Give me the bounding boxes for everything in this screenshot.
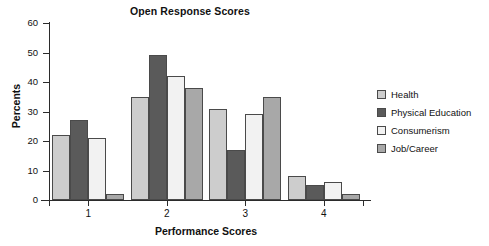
x-axis-tick-label: 1 xyxy=(68,208,108,219)
x-axis-tick-label: 4 xyxy=(304,208,344,219)
chart-figure: Open Response Scores Percents 0102030405… xyxy=(0,0,489,246)
bar xyxy=(263,97,281,200)
x-axis-boundary-tick xyxy=(49,201,50,206)
bar xyxy=(227,150,245,200)
legend-item[interactable]: Job/Career xyxy=(377,140,471,156)
bar xyxy=(209,109,227,200)
chart-legend: HealthPhysical EducationConsumerismJob/C… xyxy=(377,86,471,158)
legend-swatch-icon xyxy=(377,108,386,117)
y-axis-tick-label: 20 xyxy=(12,135,38,146)
bar xyxy=(185,88,203,200)
bar xyxy=(70,120,88,200)
bar xyxy=(306,185,324,200)
legend-item[interactable]: Consumerism xyxy=(377,122,471,138)
y-axis-tick-label: 10 xyxy=(12,165,38,176)
bar xyxy=(245,114,263,200)
legend-swatch-icon xyxy=(377,126,386,135)
legend-label: Consumerism xyxy=(391,125,450,136)
bar xyxy=(149,55,167,200)
x-axis-tick xyxy=(88,201,89,206)
bar xyxy=(167,76,185,200)
x-axis-boundary-tick xyxy=(363,201,364,206)
bar xyxy=(52,135,70,200)
x-axis-tick-label: 2 xyxy=(147,208,187,219)
x-axis-tick-label: 3 xyxy=(225,208,265,219)
bar xyxy=(131,97,149,200)
legend-label: Physical Education xyxy=(391,107,471,118)
bar xyxy=(88,138,106,200)
y-axis-tick-label: 50 xyxy=(12,47,38,58)
bar xyxy=(106,194,124,200)
x-axis-line xyxy=(41,200,371,201)
legend-label: Job/Career xyxy=(391,143,438,154)
bar xyxy=(324,182,342,200)
bar xyxy=(288,176,306,200)
legend-item[interactable]: Physical Education xyxy=(377,104,471,120)
bar xyxy=(342,194,360,200)
chart-title: Open Response Scores xyxy=(0,5,380,17)
y-axis-tick-label: 30 xyxy=(12,106,38,117)
legend-item[interactable]: Health xyxy=(377,86,471,102)
x-axis-title: Performance Scores xyxy=(49,225,363,237)
legend-swatch-icon xyxy=(377,90,386,99)
x-axis-tick xyxy=(324,201,325,206)
x-axis-tick xyxy=(167,201,168,206)
y-axis-tick-label: 40 xyxy=(12,76,38,87)
legend-swatch-icon xyxy=(377,144,386,153)
x-axis-tick xyxy=(245,201,246,206)
y-axis-tick-label: 0 xyxy=(12,194,38,205)
y-axis-tick-label: 60 xyxy=(12,17,38,28)
plot-area xyxy=(49,23,363,200)
legend-label: Health xyxy=(391,89,418,100)
